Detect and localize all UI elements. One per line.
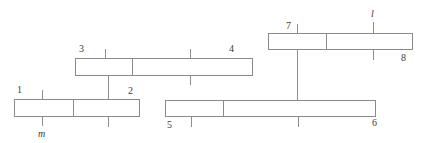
- tick-bar56-left-below: [191, 117, 192, 127]
- label-node-5: 5: [167, 120, 172, 130]
- tick-m-above: [42, 90, 43, 99]
- tick-bar12-mid-below: [108, 117, 109, 127]
- linkage-diagram: 1 2 3 4 5 6 7 8 m l: [0, 0, 428, 143]
- tick-l-below: [373, 50, 374, 60]
- tick-bar78-left-above: [297, 24, 298, 33]
- label-node-6: 6: [372, 118, 377, 128]
- tick-bar56-right-below: [298, 117, 299, 127]
- tick-bar34-right-above: [190, 49, 191, 58]
- tick-bar34-left-above: [105, 49, 106, 58]
- tick-bar34-right-below: [190, 76, 191, 85]
- label-node-4: 4: [229, 44, 234, 54]
- label-variable-m: m: [38, 129, 45, 139]
- label-node-7: 7: [286, 21, 291, 31]
- tick-m-below: [42, 117, 43, 126]
- bar-7-8: [268, 33, 413, 50]
- bar-3-4: [75, 58, 253, 76]
- bar-3-4-divider: [132, 59, 133, 75]
- label-variable-l: l: [371, 9, 374, 19]
- label-node-8: 8: [401, 53, 406, 63]
- label-node-1: 1: [17, 85, 22, 95]
- label-node-3: 3: [79, 44, 84, 54]
- tick-l-above: [373, 22, 374, 33]
- bar-1-2-divider: [73, 100, 74, 116]
- connector-bar78-to-bar56: [297, 50, 298, 100]
- label-node-2: 2: [128, 86, 133, 96]
- bar-5-6-divider: [223, 101, 224, 116]
- bar-5-6: [165, 100, 376, 117]
- bar-1-2: [14, 99, 140, 117]
- bar-7-8-divider: [326, 34, 327, 49]
- tick-bar12-mid-above: [108, 90, 109, 99]
